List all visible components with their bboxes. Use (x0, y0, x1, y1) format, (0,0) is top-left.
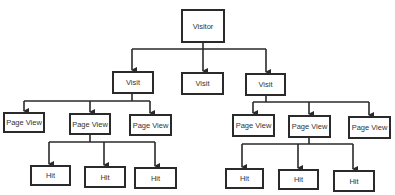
node-label: Hit (349, 177, 358, 186)
node-label: Visit (195, 79, 209, 88)
node-pageview-4: Page View (232, 114, 275, 137)
node-hit-4: Hit (225, 168, 264, 189)
node-hit-2: Hit (84, 166, 126, 188)
node-pageview-3: Page View (129, 114, 172, 136)
node-label: Page View (72, 120, 108, 129)
node-label: Page View (6, 118, 42, 127)
node-visit-3: Visit (245, 73, 286, 96)
node-visitor: Visitor (181, 9, 225, 43)
node-label: Visitor (193, 22, 214, 31)
node-label: Hit (46, 171, 55, 180)
node-label: Page View (352, 123, 388, 132)
node-label: Hit (294, 175, 303, 184)
node-label: Hit (240, 174, 249, 183)
node-hit-3: Hit (134, 167, 177, 189)
node-visit-1: Visit (112, 71, 154, 94)
node-hit-6: Hit (333, 170, 375, 192)
node-pageview-1: Page View (3, 112, 45, 133)
node-label: Visit (258, 80, 272, 89)
node-label: Hit (151, 174, 160, 183)
node-pageview-6: Page View (348, 116, 391, 139)
node-visit-2: Visit (181, 72, 224, 95)
node-label: Hit (100, 173, 109, 182)
node-pageview-2: Page View (69, 113, 111, 135)
node-label: Page View (133, 121, 169, 130)
node-label: Page View (292, 122, 328, 131)
node-label: Page View (236, 121, 272, 130)
node-label: Visit (126, 78, 140, 87)
node-pageview-5: Page View (288, 115, 331, 138)
node-hit-1: Hit (30, 165, 71, 186)
node-hit-5: Hit (278, 169, 319, 190)
